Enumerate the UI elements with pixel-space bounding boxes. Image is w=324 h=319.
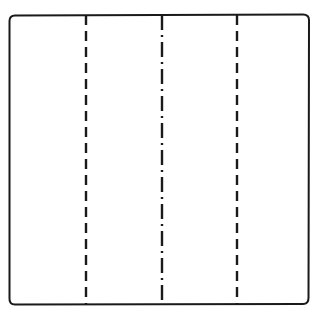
paper-sheet-outline — [9, 15, 309, 305]
fold-diagram — [0, 0, 324, 319]
